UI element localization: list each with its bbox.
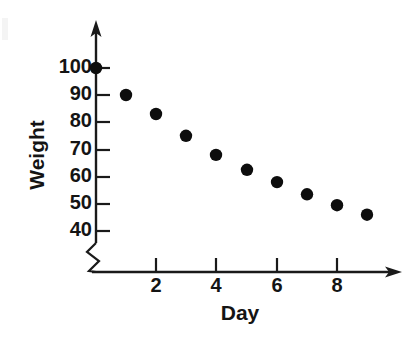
y-axis-title: Weight xyxy=(25,120,48,190)
y-axis-ticks xyxy=(96,68,110,231)
x-tick-label-2: 2 xyxy=(150,274,161,296)
y-tick-label-100: 100 xyxy=(59,55,92,77)
data-point xyxy=(210,149,222,161)
y-tick-label-90: 90 xyxy=(70,82,92,104)
y-tick-label-40: 40 xyxy=(70,218,92,240)
scan-artifact xyxy=(2,18,8,40)
scatter-plot-figure: 100 90 80 70 60 50 40 2 4 6 8 Weight Day xyxy=(0,0,415,350)
x-axis-tick-labels: 2 4 6 8 xyxy=(150,274,342,296)
y-tick-label-50: 50 xyxy=(70,191,92,213)
x-tick-label-6: 6 xyxy=(271,274,282,296)
y-axis-break-icon xyxy=(87,243,99,272)
data-point xyxy=(241,164,253,176)
plot-canvas: 100 90 80 70 60 50 40 2 4 6 8 Weight Day xyxy=(0,0,415,350)
data-point xyxy=(331,199,343,211)
x-axis-ticks xyxy=(156,258,337,272)
y-tick-label-70: 70 xyxy=(70,137,92,159)
data-point xyxy=(90,62,102,74)
y-tick-label-60: 60 xyxy=(70,164,92,186)
data-point xyxy=(301,188,313,200)
y-tick-label-80: 80 xyxy=(70,109,92,131)
y-axis-tick-labels: 100 90 80 70 60 50 40 xyxy=(59,55,92,240)
x-axis-title: Day xyxy=(221,301,260,324)
data-point-series xyxy=(90,62,373,221)
data-point xyxy=(271,176,283,188)
data-point xyxy=(180,130,192,142)
x-tick-label-4: 4 xyxy=(210,274,222,296)
x-tick-label-8: 8 xyxy=(331,274,342,296)
data-point xyxy=(120,89,132,101)
data-point xyxy=(150,108,162,120)
data-point xyxy=(361,209,373,221)
